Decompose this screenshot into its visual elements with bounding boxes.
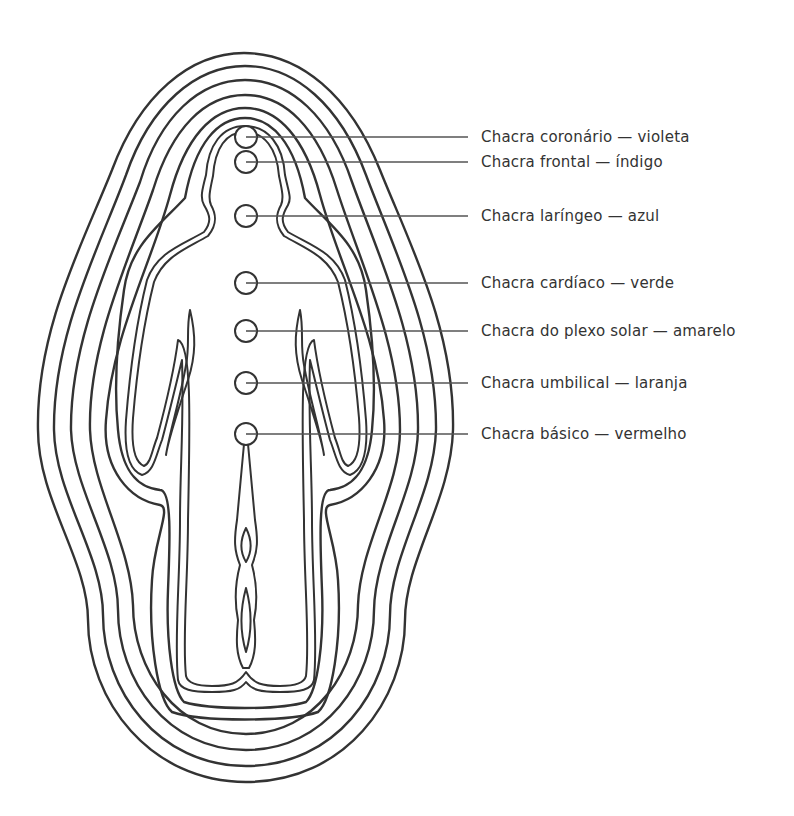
label-chakra-laringeo: Chacra laríngeo — azul — [481, 207, 659, 225]
aura-layer-5 — [106, 108, 385, 720]
label-chakra-umbilical: Chacra umbilical — laranja — [481, 374, 688, 392]
label-chakra-frontal: Chacra frontal — índigo — [481, 153, 663, 171]
label-chakra-basico: Chacra básico — vermelho — [481, 425, 687, 443]
label-chakra-plexo-solar: Chacra do plexo solar — amarelo — [481, 322, 736, 340]
chakra-points — [235, 126, 257, 445]
leg-lower — [242, 588, 251, 652]
label-chakra-coronario: Chacra coronário — violeta — [481, 128, 690, 146]
label-chakra-cardiaco: Chacra cardíaco — verde — [481, 274, 674, 292]
aura-figure — [0, 0, 794, 816]
leg-gap — [235, 444, 257, 668]
left-knee — [242, 528, 251, 562]
chakra-aura-diagram: Chacra coronário — violeta Chacra fronta… — [0, 0, 794, 816]
